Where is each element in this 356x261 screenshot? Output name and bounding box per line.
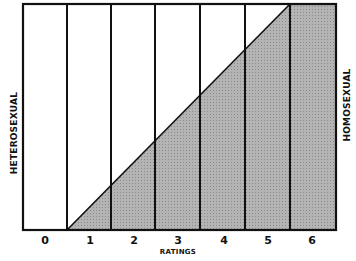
tick-5: 5 xyxy=(264,234,272,247)
tick-2: 2 xyxy=(130,234,138,247)
kinsey-diagram xyxy=(0,0,356,261)
shaded-column-6 xyxy=(290,4,336,230)
tick-3: 3 xyxy=(174,234,182,247)
tick-1: 1 xyxy=(86,234,94,247)
tick-6: 6 xyxy=(308,234,316,247)
tick-4: 4 xyxy=(220,234,228,247)
homosexual-label: HOMOSEXUAL xyxy=(342,68,352,141)
x-axis-label: RATINGS xyxy=(160,248,196,256)
heterosexual-label: HETEROSEXUAL xyxy=(9,92,19,174)
tick-0: 0 xyxy=(41,234,49,247)
